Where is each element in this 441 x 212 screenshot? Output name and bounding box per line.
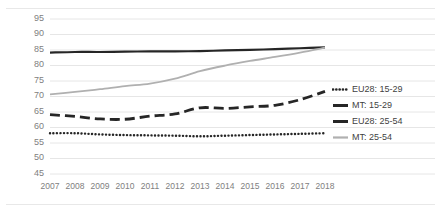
solid-light-line-marker <box>332 132 349 143</box>
x-axis-tick-label: 2018 <box>312 181 338 191</box>
y-axis-tick-label: 95 <box>22 13 44 23</box>
line-chart: 9590858075706560555045 20072008200920102… <box>0 0 441 212</box>
y-axis-tick-label: 55 <box>22 137 44 147</box>
y-axis-tick-label: 75 <box>22 75 44 85</box>
series-line <box>50 48 325 95</box>
dotted-line-marker <box>332 84 349 95</box>
x-axis-tick-label: 2012 <box>162 181 188 191</box>
x-axis-tick-label: 2017 <box>287 181 313 191</box>
y-axis-tick-label: 70 <box>22 90 44 100</box>
legend-item[interactable]: MT: 25-54 <box>332 130 436 144</box>
x-axis-tick-label: 2016 <box>262 181 288 191</box>
x-axis-tick-label: 2008 <box>62 181 88 191</box>
y-axis-tick-label: 50 <box>22 152 44 162</box>
x-axis-tick-label: 2014 <box>212 181 238 191</box>
series-lines <box>50 47 325 136</box>
legend-item[interactable]: EU28: 25-54 <box>332 114 436 128</box>
y-axis-tick-label: 90 <box>22 28 44 38</box>
x-axis-tick-label: 2009 <box>87 181 113 191</box>
legend-item-label: EU28: 15-29 <box>352 84 403 94</box>
dashed-line-marker <box>332 100 349 111</box>
series-line <box>50 91 325 119</box>
chart-legend: EU28: 15-29MT: 15-29EU28: 25-54MT: 25-54 <box>332 82 436 146</box>
legend-item-label: MT: 25-54 <box>352 132 392 142</box>
x-axis-tick-label: 2013 <box>187 181 213 191</box>
series-line <box>50 133 325 136</box>
y-axis-tick-label: 85 <box>22 44 44 54</box>
x-axis-tick-label: 2015 <box>237 181 263 191</box>
y-axis-tick-label: 80 <box>22 59 44 69</box>
x-axis-tick-label: 2011 <box>137 181 163 191</box>
solid-thick-line-marker <box>332 116 349 127</box>
legend-item[interactable]: EU28: 15-29 <box>332 82 436 96</box>
y-axis-tick-label: 65 <box>22 106 44 116</box>
x-axis-tick-label: 2010 <box>112 181 138 191</box>
legend-item[interactable]: MT: 15-29 <box>332 98 436 112</box>
y-axis-tick-label: 45 <box>22 168 44 178</box>
legend-item-label: EU28: 25-54 <box>352 116 403 126</box>
legend-item-label: MT: 15-29 <box>352 100 392 110</box>
y-axis-tick-label: 60 <box>22 121 44 131</box>
x-axis-tick-label: 2007 <box>37 181 63 191</box>
